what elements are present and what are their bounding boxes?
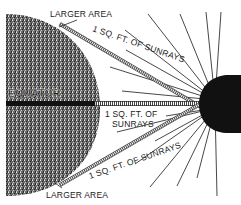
sunrays-middle-label-line1: 1 SQ. FT. OF [105,109,157,119]
larger-area-top-label: LARGER AREA [50,9,112,19]
sunrays-middle-label-line2: SUNRAYS [112,119,154,129]
sun-shape [199,75,241,133]
larger-area-bottom-label: LARGER AREA [46,190,108,200]
equator-label: EQUATOR [8,88,61,99]
beam-middle [6,101,206,106]
sunrays-top-label: 1 SQ. FT. OF SUNRAYS [91,23,186,64]
sunlight-diagram: EQUATOR LARGER AREA 1 SQ. FT. OF SUNRAYS… [0,0,241,205]
